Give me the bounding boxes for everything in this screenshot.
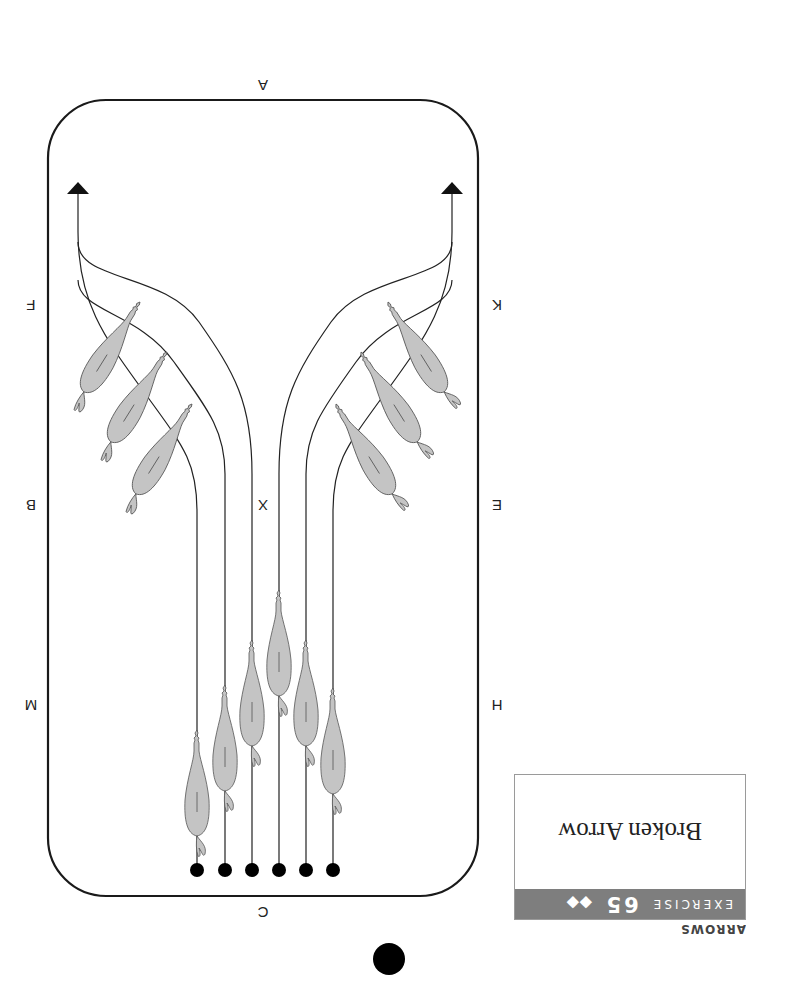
marker-k: K bbox=[492, 297, 502, 314]
marker-h: H bbox=[492, 697, 503, 714]
arrowhead-f-icon bbox=[67, 182, 89, 194]
marker-m: M bbox=[25, 697, 38, 714]
exercise-page: ARROWS EXERCISE 65 ◆◆ Broken Arrow C A X… bbox=[0, 0, 786, 1002]
marker-x: X bbox=[258, 497, 268, 514]
marker-f: F bbox=[26, 297, 35, 314]
horses-straight bbox=[185, 590, 345, 857]
arena-diagram: C A X H E K M B F bbox=[0, 0, 786, 1002]
marker-c: C bbox=[257, 904, 268, 921]
horses-diagonal bbox=[63, 296, 466, 518]
arrowhead-k-icon bbox=[441, 182, 463, 194]
start-dots bbox=[190, 863, 340, 877]
marker-e: E bbox=[492, 497, 502, 514]
marker-b: B bbox=[26, 497, 36, 514]
marker-a: A bbox=[258, 77, 268, 94]
ride-paths bbox=[78, 190, 452, 870]
